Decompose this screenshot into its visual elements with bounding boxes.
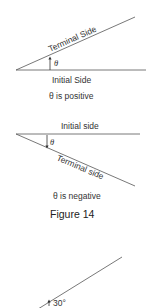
angle-diagrams: Terminal Side θ Initial Side θ is positi…: [0, 0, 147, 308]
thirty-degree-figure: 30°: [38, 257, 122, 308]
terminal-side-label: Terminal Side: [47, 24, 98, 54]
initial-side-label-2: Initial side: [61, 121, 99, 131]
positive-angle-figure: Terminal Side θ Initial Side θ is positi…: [16, 17, 146, 101]
angle-30-label: 30°: [53, 298, 66, 308]
positive-caption: θ is positive: [49, 91, 94, 101]
initial-side-label: Initial Side: [52, 75, 91, 85]
figure-title: Figure 14: [50, 208, 95, 220]
theta-label: θ: [54, 58, 58, 68]
negative-angle-figure: Initial side θ Terminal side θ is negati…: [16, 121, 140, 201]
theta-label-2: θ: [50, 137, 54, 147]
ray-line: [38, 257, 122, 308]
negative-caption: θ is negative: [53, 191, 101, 201]
terminal-side-line: [16, 17, 135, 70]
terminal-side-label-2: Terminal side: [55, 153, 105, 182]
